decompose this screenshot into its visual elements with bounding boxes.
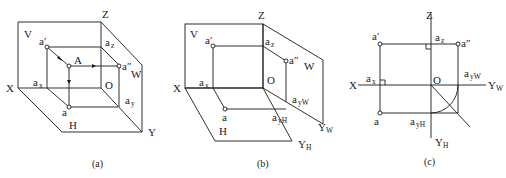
y-axis bbox=[101, 88, 142, 132]
svg-text:W: W bbox=[326, 126, 334, 135]
label-az: a z bbox=[265, 35, 275, 49]
label-O: O bbox=[267, 74, 275, 86]
label-Z: Z bbox=[258, 9, 265, 21]
svg-text:yW: yW bbox=[298, 98, 310, 107]
diagonal-45-line bbox=[431, 85, 470, 127]
projector-A-to-a-prime bbox=[47, 47, 69, 66]
svg-text:yH: yH bbox=[278, 116, 288, 125]
label-az: a z bbox=[105, 36, 115, 50]
svg-text:a: a bbox=[199, 76, 204, 88]
label-O: O bbox=[105, 79, 113, 91]
label-V: V bbox=[190, 28, 198, 40]
point-a-dprime bbox=[284, 59, 288, 63]
label-a-dprime: a″ bbox=[122, 60, 131, 72]
label-a-prime: a′ bbox=[372, 30, 379, 42]
svg-text:x: x bbox=[39, 81, 43, 90]
svg-text:a: a bbox=[33, 76, 38, 88]
right-angle-mark-ax bbox=[380, 80, 385, 85]
label-ax: a x bbox=[366, 72, 376, 86]
arrow-to-a bbox=[67, 80, 71, 84]
label-a-prime: a′ bbox=[39, 35, 46, 47]
label-a-dprime: a″ bbox=[461, 37, 470, 49]
svg-text:a: a bbox=[410, 115, 415, 127]
label-X: X bbox=[173, 82, 181, 94]
svg-text:Y: Y bbox=[318, 121, 326, 133]
svg-text:a: a bbox=[272, 111, 277, 123]
label-ay: a y bbox=[125, 94, 135, 108]
label-W: W bbox=[304, 60, 315, 72]
point-a-dprime bbox=[117, 64, 121, 68]
arrow-to-a-dprime bbox=[92, 64, 96, 68]
point-A bbox=[67, 64, 71, 68]
label-YW: Y W bbox=[318, 121, 334, 135]
label-Y: Y bbox=[148, 126, 156, 138]
label-H: H bbox=[219, 125, 227, 137]
svg-text:a: a bbox=[105, 36, 110, 48]
label-a-dprime: a″ bbox=[289, 54, 298, 66]
svg-text:yW: yW bbox=[470, 72, 482, 81]
label-H: H bbox=[69, 119, 77, 131]
label-ayW: a yW bbox=[292, 93, 310, 107]
panel-b-unfolding: V Z X W H O a′ a″ a a x a z a yW a yH Y … bbox=[173, 9, 334, 170]
label-Z: Z bbox=[426, 9, 433, 21]
ax-to-a bbox=[47, 88, 69, 107]
panel-c-three-view: Z X O a′ a″ a a x a z a yW a yH Y W Y H … bbox=[349, 9, 504, 168]
svg-text:Y: Y bbox=[298, 138, 306, 150]
svg-text:z: z bbox=[111, 41, 115, 50]
label-a: a bbox=[374, 115, 379, 127]
label-a-prime: a′ bbox=[205, 34, 212, 46]
label-YW: Y W bbox=[488, 79, 504, 93]
caption-c: (c) bbox=[424, 156, 435, 168]
svg-text:a: a bbox=[265, 35, 270, 47]
svg-text:a: a bbox=[292, 93, 297, 105]
point-a bbox=[67, 105, 71, 109]
svg-text:Y: Y bbox=[488, 79, 496, 91]
svg-text:x: x bbox=[372, 77, 376, 86]
label-X: X bbox=[349, 79, 357, 91]
caption-b: (b) bbox=[257, 158, 269, 170]
right-angle-mark-az bbox=[426, 44, 431, 49]
label-A: A bbox=[74, 54, 82, 66]
svg-text:H: H bbox=[306, 143, 312, 152]
label-YH: Y H bbox=[435, 136, 449, 150]
label-az: a z bbox=[435, 31, 445, 45]
svg-text:y: y bbox=[131, 99, 135, 108]
svg-text:yH: yH bbox=[416, 120, 426, 129]
label-Z: Z bbox=[102, 8, 109, 20]
point-a-dprime bbox=[456, 42, 460, 46]
label-a: a bbox=[222, 111, 227, 123]
three-projection-diagram: V Z X W H Y O A a′ a″ a a x a z a y (a) bbox=[0, 0, 506, 178]
label-ayW: a yW bbox=[464, 67, 482, 81]
label-X: X bbox=[6, 82, 14, 94]
label-ayH: a yH bbox=[410, 115, 426, 129]
ax-to-a bbox=[213, 88, 225, 109]
svg-text:W: W bbox=[496, 84, 504, 93]
caption-a: (a) bbox=[92, 158, 103, 170]
label-ayH: a yH bbox=[272, 111, 288, 125]
label-O: O bbox=[433, 74, 441, 86]
az-to-a-dprime bbox=[263, 46, 286, 61]
label-a: a bbox=[62, 106, 67, 118]
svg-text:a: a bbox=[464, 67, 469, 79]
svg-text:z: z bbox=[271, 40, 275, 49]
svg-text:a: a bbox=[366, 72, 371, 84]
label-W: W bbox=[131, 68, 142, 80]
svg-text:a: a bbox=[125, 94, 130, 106]
point-a-prime bbox=[378, 42, 382, 46]
az-to-a-dprime bbox=[101, 47, 119, 65]
label-YH: Y H bbox=[298, 138, 312, 152]
panel-a-3d-projection: V Z X W H Y O A a′ a″ a a x a z a y (a) bbox=[6, 8, 156, 170]
svg-text:a: a bbox=[435, 31, 440, 43]
h-plane-outline bbox=[18, 88, 142, 132]
label-V: V bbox=[24, 28, 32, 40]
svg-text:H: H bbox=[443, 141, 449, 150]
svg-text:x: x bbox=[205, 81, 209, 90]
svg-text:Y: Y bbox=[435, 136, 443, 148]
